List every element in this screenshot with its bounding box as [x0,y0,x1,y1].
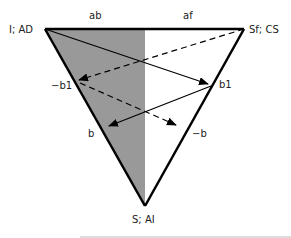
edge-label-b: b [88,128,94,139]
right-edge [145,29,244,206]
vertex-label-bottom: S; AI [132,214,155,225]
vertex-label-top-right: Sf; CS [249,24,279,35]
vertex-label-top-left: I; AD [9,24,33,35]
edge-label-neg-b: −b [192,128,207,139]
edge-label-ab: ab [89,10,101,21]
edge-label-af: af [183,10,193,21]
edge-label-neg-b1: −b1 [51,80,72,91]
edge-label-b1: b1 [219,79,232,90]
triangle-diagram: I; AD Sf; CS S; AI ab af −b1 b b1 −b [0,0,291,238]
